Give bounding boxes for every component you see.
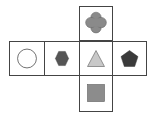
face-left-inner [44, 41, 80, 76]
circle-icon [10, 42, 44, 75]
face-right [112, 41, 147, 76]
face-center [79, 41, 113, 76]
square-icon [80, 76, 112, 111]
pentagon-icon [113, 42, 146, 75]
triangle-icon [80, 42, 112, 75]
face-left-outer [9, 41, 45, 76]
hexagon-icon [45, 42, 79, 75]
face-bottom [79, 75, 113, 112]
face-top [79, 6, 113, 41]
quatrefoil-icon [80, 7, 112, 40]
